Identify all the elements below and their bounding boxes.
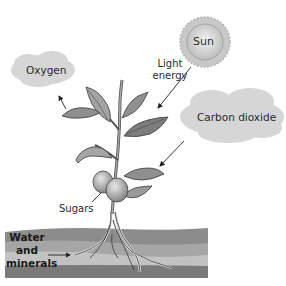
leaf — [62, 108, 100, 119]
light-energy-label-line2: energy — [152, 70, 188, 82]
light-energy-label: Light energy — [152, 58, 188, 82]
water-label-line3: minerals — [6, 257, 48, 270]
fruits — [93, 171, 128, 202]
oxygen-label: Oxygen — [26, 64, 66, 76]
sugars-label: Sugars — [59, 203, 93, 215]
leaf — [76, 147, 112, 163]
light-energy-label-line1: Light — [152, 58, 188, 70]
carbon-dioxide-arrow — [160, 141, 184, 166]
fruit — [106, 178, 128, 202]
leaf — [124, 168, 164, 180]
leaf — [122, 92, 148, 118]
carbon-dioxide-label: Carbon dioxide — [197, 111, 276, 123]
water-label-line1: Water — [6, 231, 48, 244]
oxygen-arrow — [59, 96, 66, 109]
water-and-minerals-label: Water and minerals — [6, 231, 48, 270]
sun-label: Sun — [193, 36, 214, 48]
water-label-line2: and — [6, 244, 48, 257]
sugars-pointer — [92, 193, 101, 202]
